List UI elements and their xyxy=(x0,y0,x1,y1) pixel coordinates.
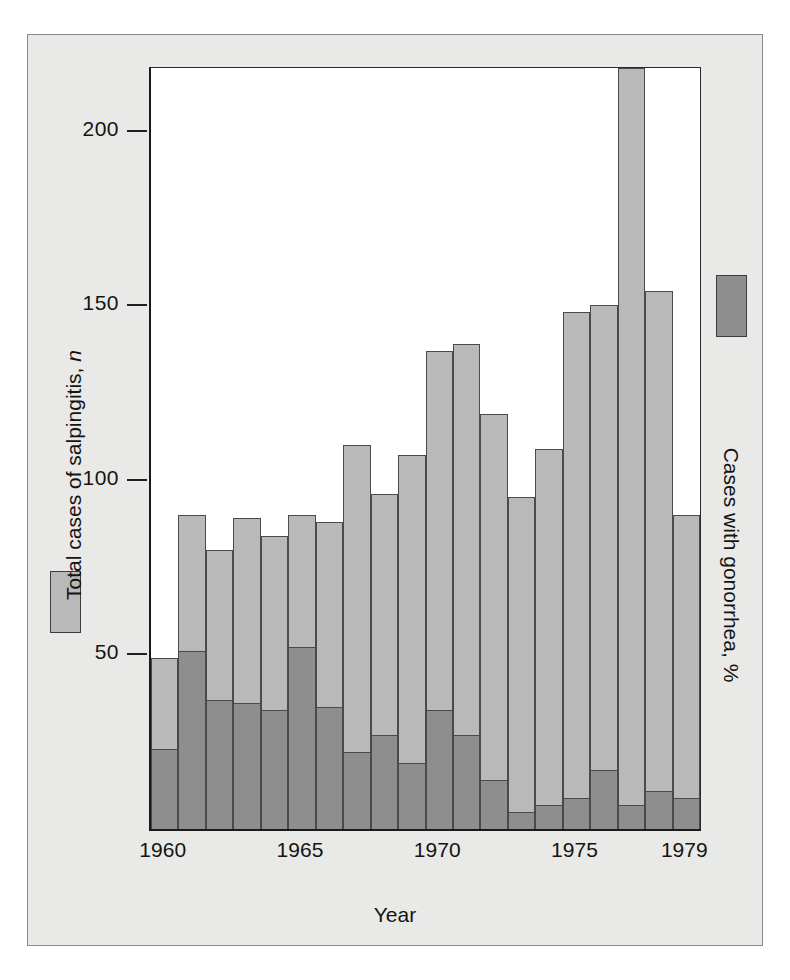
bar-segment-gonorrhea-1978 xyxy=(645,791,672,829)
bar-segment-gonorrhea-1971 xyxy=(453,735,480,829)
bar-1963[interactable] xyxy=(233,518,260,829)
y-tick-label: 100 xyxy=(19,466,119,490)
legend-swatch-with-gonorrhea xyxy=(716,275,747,337)
bar-1965[interactable] xyxy=(288,515,315,829)
bar-segment-gonorrhea-1964 xyxy=(261,710,288,829)
plot-area xyxy=(149,67,701,831)
bar-1968[interactable] xyxy=(371,494,398,829)
bar-1977[interactable] xyxy=(618,68,645,829)
right-axis-title: Cases with gonorrhea, % xyxy=(711,365,751,765)
right-axis-title-text: Cases with gonorrhea, % xyxy=(720,448,743,683)
bar-segment-gonorrhea-1973 xyxy=(508,812,535,829)
bar-1973[interactable] xyxy=(508,497,535,829)
y-tick-label: 150 xyxy=(19,291,119,315)
bar-segment-gonorrhea-1962 xyxy=(206,700,233,829)
bar-1970[interactable] xyxy=(426,351,453,829)
x-tick-label: 1960 xyxy=(118,838,208,862)
bar-1972[interactable] xyxy=(480,414,507,829)
bar-1976[interactable] xyxy=(590,305,617,829)
bar-1969[interactable] xyxy=(398,455,425,829)
bar-segment-gonorrhea-1968 xyxy=(371,735,398,829)
bar-segment-gonorrhea-1979 xyxy=(673,798,700,829)
y-tick-mark xyxy=(127,304,147,306)
bar-segment-gonorrhea-1977 xyxy=(618,805,645,829)
bar-1960[interactable] xyxy=(151,658,178,829)
bar-1967[interactable] xyxy=(343,445,370,829)
bar-segment-gonorrhea-1970 xyxy=(426,710,453,829)
bar-1974[interactable] xyxy=(535,449,562,830)
bar-1979[interactable] xyxy=(673,515,700,829)
bar-segment-gonorrhea-1966 xyxy=(316,707,343,829)
x-tick-label: 1965 xyxy=(255,838,345,862)
bar-segment-gonorrhea-1972 xyxy=(480,780,507,829)
bar-1961[interactable] xyxy=(178,515,205,829)
bar-series-container xyxy=(151,68,700,829)
y-tick-mark xyxy=(127,479,147,481)
figure-panel: Total cases of salpingitis, n Cases with… xyxy=(27,34,763,946)
bar-segment-gonorrhea-1963 xyxy=(233,703,260,829)
bar-1966[interactable] xyxy=(316,522,343,829)
bar-1962[interactable] xyxy=(206,550,233,829)
bar-1978[interactable] xyxy=(645,291,672,829)
y-tick-label: 50 xyxy=(19,640,119,664)
bar-1964[interactable] xyxy=(261,536,288,829)
y-tick-label: 200 xyxy=(19,117,119,141)
bar-segment-gonorrhea-1961 xyxy=(178,651,205,829)
x-tick-label: 1975 xyxy=(529,838,619,862)
bar-1975[interactable] xyxy=(563,312,590,829)
y-tick-mark xyxy=(127,130,147,132)
bar-segment-gonorrhea-1974 xyxy=(535,805,562,829)
x-tick-label: 1970 xyxy=(392,838,482,862)
x-axis-title: Year xyxy=(28,903,762,927)
y-tick-mark xyxy=(127,653,147,655)
bar-segment-gonorrhea-1976 xyxy=(590,770,617,829)
bar-segment-gonorrhea-1965 xyxy=(288,647,315,829)
bar-segment-gonorrhea-1967 xyxy=(343,752,370,829)
bar-segment-gonorrhea-1975 xyxy=(563,798,590,829)
bar-segment-gonorrhea-1969 xyxy=(398,763,425,829)
bar-segment-gonorrhea-1960 xyxy=(151,749,178,829)
bar-1971[interactable] xyxy=(453,344,480,829)
x-tick-label: 1979 xyxy=(639,838,729,862)
